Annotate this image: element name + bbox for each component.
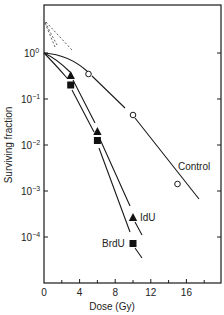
y-tick-label-1e-3: 10−3	[21, 185, 40, 197]
y-tick-label-1e0: 100	[24, 47, 39, 59]
x-tick-label-16: 16	[181, 287, 193, 298]
idu-label: IdU	[140, 212, 156, 223]
brdu-point	[67, 82, 74, 89]
control-curve	[44, 53, 199, 199]
brdu-label: BrdU	[102, 238, 125, 249]
y-ticks-right	[217, 53, 221, 237]
x-tick-label-8: 8	[112, 287, 118, 298]
x-tick-label-12: 12	[145, 287, 157, 298]
x-axis-title: Dose (Gy)	[89, 301, 135, 312]
control-point	[175, 181, 181, 187]
idu-point	[67, 71, 75, 79]
x-tick-label-0: 0	[41, 287, 47, 298]
y-tick-label-1e-1: 10−1	[21, 93, 40, 105]
control-point	[130, 112, 136, 118]
control-markers	[86, 71, 181, 187]
idu-curve	[44, 53, 142, 235]
brdu-curve	[44, 53, 142, 258]
x-tick-labels: 0 4 8 12 16	[41, 287, 192, 298]
y-tick-label-1e-4: 10−4	[21, 231, 40, 243]
y-tick-labels: 100 10−1 10−2 10−3 10−4	[21, 47, 40, 243]
control-point	[86, 71, 92, 77]
brdu-point	[94, 137, 101, 144]
y-tick-label-1e-2: 10−2	[21, 139, 40, 151]
idu-point	[129, 213, 137, 221]
brdu-point	[130, 240, 137, 247]
idu-point	[93, 127, 101, 135]
x-tick-label-4: 4	[77, 287, 83, 298]
y-axis-title: Surviving fraction	[3, 107, 14, 184]
control-label: Control	[178, 161, 210, 172]
survival-chart: 100 10−1 10−2 10−3 10−4 0 4 8 12 16 Dose…	[0, 0, 224, 315]
dashed-extrapolation-lines	[45, 22, 72, 50]
